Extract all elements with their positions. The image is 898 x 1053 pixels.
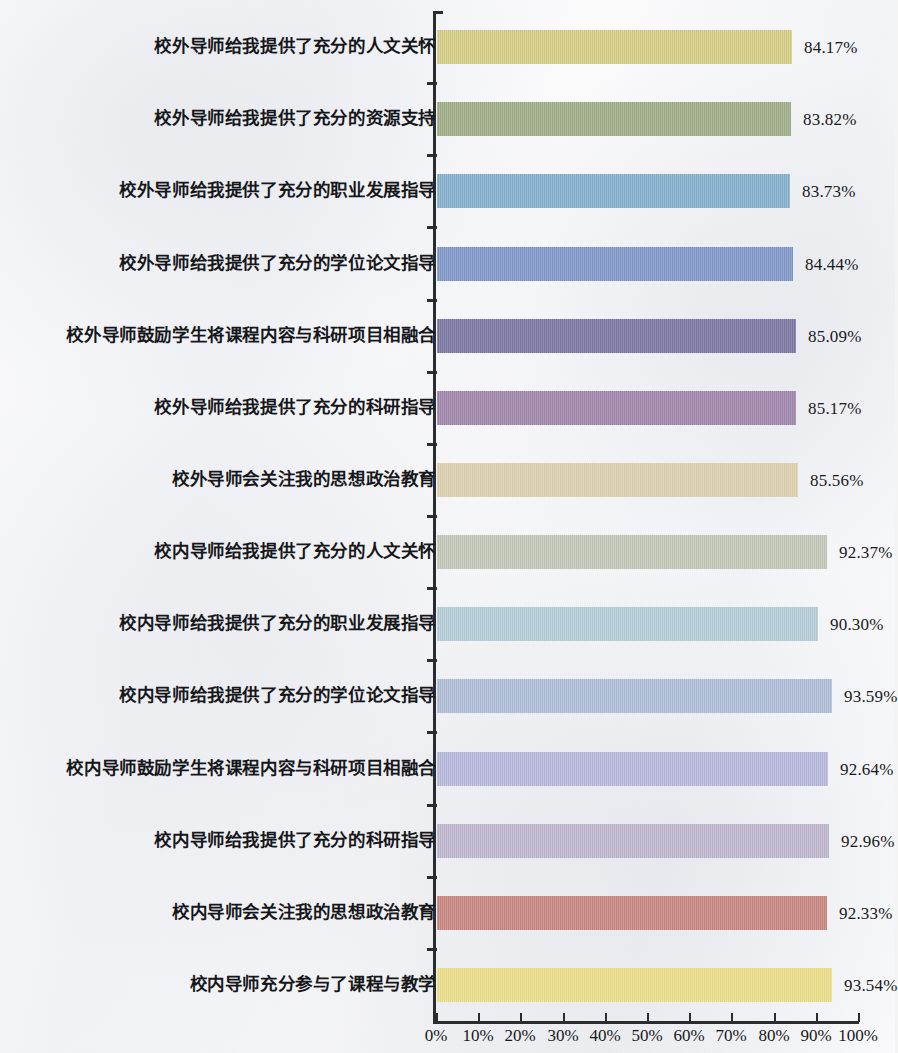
x-axis-tick-label: 0%	[425, 1027, 448, 1044]
category-label: 校内导师给我提供了充分的人文关怀	[154, 543, 436, 561]
x-axis-tick	[774, 1013, 776, 1022]
x-axis-tick	[478, 1013, 480, 1022]
category-label: 校外导师会关注我的思想政治教育	[172, 471, 436, 489]
y-axis-tick	[427, 154, 437, 157]
bar	[437, 247, 793, 281]
category-label: 校内导师充分参与了课程与教学	[190, 976, 436, 994]
y-axis-tick	[427, 587, 437, 590]
bar	[437, 102, 791, 136]
bar	[437, 463, 798, 497]
category-label: 校内导师鼓励学生将课程内容与科研项目相融合	[66, 760, 436, 778]
x-axis-tick-label: 90%	[800, 1027, 831, 1044]
bar-value-label: 85.56%	[810, 472, 864, 489]
bar-value-label: 93.59%	[844, 688, 898, 705]
bar-value-label: 85.09%	[808, 328, 862, 345]
bar-fill	[437, 247, 793, 281]
bar-fill	[437, 535, 827, 569]
category-label: 校内导师会关注我的思想政治教育	[172, 904, 436, 922]
x-axis-tick-label: 80%	[758, 1027, 789, 1044]
x-axis-tick-label: 50%	[631, 1027, 662, 1044]
bar-fill	[437, 391, 796, 425]
bar-fill	[437, 30, 792, 64]
y-axis-tick	[427, 299, 437, 302]
bar	[437, 535, 827, 569]
x-axis-tick	[689, 1013, 691, 1022]
x-axis-tick	[563, 1013, 565, 1022]
bar	[437, 174, 790, 208]
bar-value-label: 92.37%	[839, 544, 893, 561]
bar-value-label: 83.82%	[803, 111, 857, 128]
x-axis-tick-label: 10%	[462, 1027, 493, 1044]
bar-value-label: 90.30%	[830, 616, 884, 633]
bar-fill	[437, 319, 796, 353]
x-axis-tick	[816, 1013, 818, 1022]
category-label: 校外导师给我提供了充分的资源支持	[154, 110, 436, 128]
bar	[437, 319, 796, 353]
bar-value-label: 92.96%	[841, 833, 895, 850]
y-axis-tick	[427, 371, 437, 374]
x-axis-tick-label: 40%	[589, 1027, 620, 1044]
x-axis-line	[433, 1021, 859, 1024]
y-axis-tick	[427, 804, 437, 807]
bar	[437, 968, 832, 1002]
bar-fill	[437, 968, 832, 1002]
x-axis-tick	[520, 1013, 522, 1022]
bar-fill	[437, 174, 790, 208]
x-axis-tick-label: 60%	[673, 1027, 704, 1044]
bar	[437, 607, 818, 641]
bar-value-label: 83.73%	[802, 183, 856, 200]
y-axis-tick	[427, 948, 437, 951]
y-axis-tick	[427, 82, 437, 85]
category-label: 校外导师给我提供了充分的学位论文指导	[119, 255, 436, 273]
category-label: 校外导师给我提供了充分的职业发展指导	[119, 182, 436, 200]
bar	[437, 752, 828, 786]
bar-value-label: 84.17%	[804, 39, 858, 56]
y-axis-tick	[427, 226, 437, 229]
bar	[437, 824, 829, 858]
x-axis-tick	[436, 1013, 438, 1022]
y-axis-tick	[427, 876, 437, 879]
bar-fill	[437, 824, 829, 858]
x-axis-tick-label: 70%	[715, 1027, 746, 1044]
bar-value-label: 84.44%	[805, 256, 859, 273]
bar-fill	[437, 896, 827, 930]
y-axis-tick	[427, 443, 437, 446]
bar-value-label: 93.54%	[844, 977, 898, 994]
x-axis-tick	[731, 1013, 733, 1022]
bar-value-label: 92.64%	[840, 761, 894, 778]
category-label: 校外导师给我提供了充分的科研指导	[154, 399, 436, 417]
category-label: 校外导师鼓励学生将课程内容与科研项目相融合	[66, 327, 436, 345]
y-axis-tick	[427, 515, 437, 518]
category-label: 校内导师给我提供了充分的科研指导	[154, 832, 436, 850]
x-axis-tick-label: 20%	[504, 1027, 535, 1044]
y-axis-tick	[427, 731, 437, 734]
bar	[437, 896, 827, 930]
x-axis-tick-label: 30%	[547, 1027, 578, 1044]
x-axis-tick	[605, 1013, 607, 1022]
category-label: 校内导师给我提供了充分的学位论文指导	[119, 687, 436, 705]
bar	[437, 679, 832, 713]
bar-value-label: 92.33%	[839, 905, 893, 922]
x-axis-tick-label: 100%	[838, 1027, 878, 1044]
y-axis-tick	[427, 659, 437, 662]
bar	[437, 30, 792, 64]
x-axis-tick	[647, 1013, 649, 1022]
category-label: 校内导师给我提供了充分的职业发展指导	[119, 615, 436, 633]
bar-fill	[437, 463, 798, 497]
bar	[437, 391, 796, 425]
bar-fill	[437, 102, 791, 136]
bar-fill	[437, 607, 818, 641]
bar-value-label: 85.17%	[808, 400, 862, 417]
x-axis-tick	[858, 1013, 860, 1022]
bar-fill	[437, 752, 828, 786]
bar-fill	[437, 679, 832, 713]
category-label: 校外导师给我提供了充分的人文关怀	[154, 38, 436, 56]
